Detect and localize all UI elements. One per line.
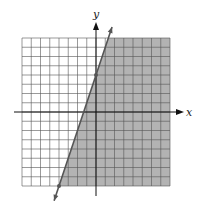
plotted-point <box>57 184 61 188</box>
plotted-point <box>94 73 98 77</box>
inequality-graph: x y <box>0 0 202 213</box>
x-axis-label: x <box>186 106 193 119</box>
y-axis-label: y <box>92 8 100 21</box>
